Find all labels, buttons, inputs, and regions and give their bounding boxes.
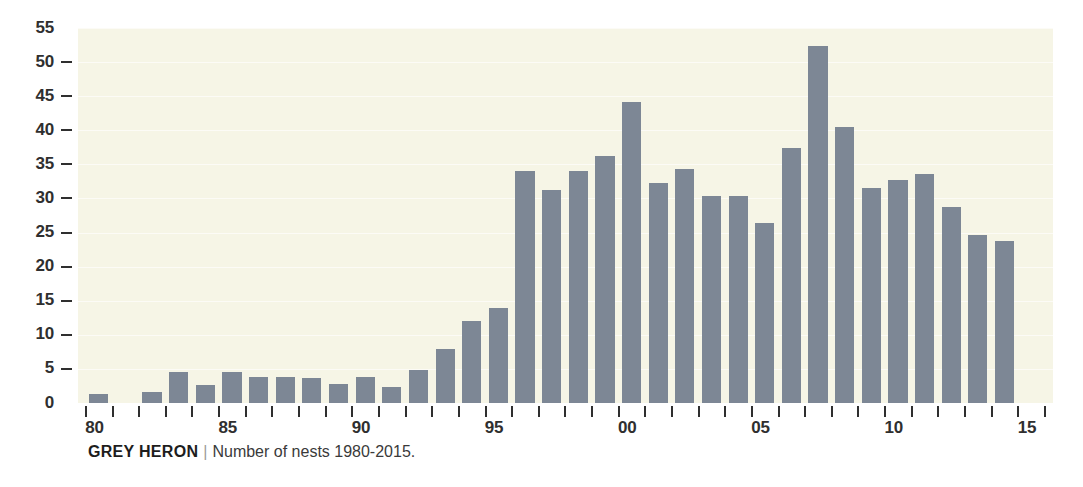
bar — [302, 378, 321, 403]
y-tick-mark — [61, 232, 72, 234]
x-tick-mark — [991, 406, 993, 417]
x-tick-mark — [351, 406, 353, 417]
bar — [356, 377, 375, 403]
x-tick-mark — [618, 406, 620, 417]
y-tick-label: 55 — [35, 19, 54, 36]
x-tick-label: 95 — [485, 419, 504, 436]
x-tick-mark — [138, 406, 140, 417]
bar — [142, 392, 161, 403]
y-tick-label: 10 — [35, 325, 54, 342]
bar — [249, 377, 268, 403]
bar — [222, 372, 241, 403]
caption-species: GREY HERON — [88, 443, 198, 460]
y-tick-mark — [61, 95, 72, 97]
x-tick-mark — [112, 406, 114, 417]
y-tick-mark — [61, 266, 72, 268]
y-axis: 0510152025303540455055 — [0, 0, 78, 431]
x-tick-mark — [964, 406, 966, 417]
x-tick-label: 90 — [352, 419, 371, 436]
x-tick-label: 80 — [85, 419, 104, 436]
y-tick-mark — [61, 402, 72, 404]
bar — [755, 223, 774, 403]
y-tick-mark — [61, 197, 72, 199]
y-tick-mark — [61, 300, 72, 302]
bar — [89, 394, 108, 403]
x-tick-label: 10 — [884, 419, 903, 436]
caption-description: Number of nests 1980-2015. — [212, 443, 415, 460]
x-tick-mark — [591, 406, 593, 417]
y-tick-mark — [61, 334, 72, 336]
y-tick-label: 35 — [35, 155, 54, 172]
y-tick-label: 30 — [35, 189, 54, 206]
x-tick-mark — [884, 406, 886, 417]
bar — [622, 102, 641, 403]
x-tick-mark — [778, 406, 780, 417]
y-tick-label: 15 — [35, 291, 54, 308]
x-tick-mark — [245, 406, 247, 417]
y-tick-label: 0 — [45, 394, 54, 411]
bar — [915, 174, 934, 403]
x-tick-mark — [724, 406, 726, 417]
bar — [169, 372, 188, 403]
bar — [649, 183, 668, 403]
bar — [729, 196, 748, 403]
x-tick-mark — [644, 406, 646, 417]
y-tick-label: 40 — [35, 121, 54, 138]
x-tick-mark — [937, 406, 939, 417]
x-tick-label: 00 — [618, 419, 637, 436]
x-tick-mark — [271, 406, 273, 417]
y-tick-label: 45 — [35, 87, 54, 104]
bar — [329, 384, 348, 403]
bar — [968, 235, 987, 403]
x-tick-mark — [831, 406, 833, 417]
bar — [888, 180, 907, 403]
bar — [675, 169, 694, 403]
x-tick-label: 05 — [751, 419, 770, 436]
y-tick-label: 20 — [35, 257, 54, 274]
bar — [382, 387, 401, 403]
bar — [196, 385, 215, 403]
x-tick-mark — [538, 406, 540, 417]
x-tick-mark — [1044, 406, 1046, 417]
x-tick-mark — [218, 406, 220, 417]
x-tick-mark — [485, 406, 487, 417]
x-tick-mark — [405, 406, 407, 417]
x-axis: 8085909500051015 — [78, 403, 1053, 439]
bar — [595, 156, 614, 403]
x-tick-mark — [431, 406, 433, 417]
bar — [542, 190, 561, 403]
y-tick-mark — [61, 61, 72, 63]
x-tick-mark — [85, 406, 87, 417]
y-tick-label: 25 — [35, 223, 54, 240]
bar — [276, 377, 295, 403]
bar — [702, 196, 721, 403]
y-tick-mark — [61, 163, 72, 165]
bar — [995, 241, 1014, 403]
x-tick-mark — [458, 406, 460, 417]
y-tick-mark — [61, 368, 72, 370]
x-tick-mark — [1017, 406, 1019, 417]
y-tick-mark — [61, 27, 72, 29]
bar — [835, 127, 854, 403]
bar — [782, 148, 801, 403]
x-tick-mark — [857, 406, 859, 417]
chart-caption: GREY HERON|Number of nests 1980-2015. — [88, 443, 415, 461]
caption-separator: | — [198, 443, 212, 460]
x-tick-mark — [511, 406, 513, 417]
y-tick-label: 50 — [35, 53, 54, 70]
bars-layer — [78, 28, 1053, 403]
y-tick-mark — [61, 129, 72, 131]
x-tick-mark — [804, 406, 806, 417]
x-tick-mark — [325, 406, 327, 417]
x-tick-mark — [191, 406, 193, 417]
x-tick-mark — [378, 406, 380, 417]
x-tick-mark — [165, 406, 167, 417]
bar — [569, 171, 588, 403]
bar — [409, 370, 428, 403]
bar — [808, 46, 827, 403]
chart-figure: 0510152025303540455055 8085909500051015 … — [0, 0, 1083, 487]
x-tick-mark — [671, 406, 673, 417]
bar — [489, 308, 508, 403]
bar — [462, 321, 481, 404]
x-tick-mark — [698, 406, 700, 417]
